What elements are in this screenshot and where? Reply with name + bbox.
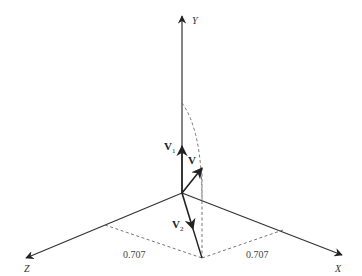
y-axis-label: Y xyxy=(192,15,199,26)
z-axis xyxy=(26,193,182,258)
x-axis-label: X xyxy=(334,263,342,274)
rotation-arc xyxy=(182,103,202,200)
vector-v xyxy=(182,168,202,193)
vector-v2-extension xyxy=(193,229,202,258)
z-component-value: 0.707 xyxy=(123,249,146,260)
vector-v2-label: V xyxy=(172,218,180,230)
z-projection-line xyxy=(105,225,202,258)
vector-v2 xyxy=(182,193,193,229)
x-axis xyxy=(182,193,342,255)
vector-v-label: V xyxy=(188,154,196,166)
vector-v1-subscript: 1 xyxy=(172,147,176,155)
z-axis-label: Z xyxy=(24,263,30,274)
vector-v2-subscript: 2 xyxy=(180,225,184,233)
x-component-value: 0.707 xyxy=(246,249,269,260)
vector-decomposition-diagram: Y Z X V 1 V V 2 0.707 0.707 xyxy=(0,0,362,276)
vector-v1-label: V xyxy=(164,140,172,152)
x-projection-line xyxy=(202,230,283,258)
